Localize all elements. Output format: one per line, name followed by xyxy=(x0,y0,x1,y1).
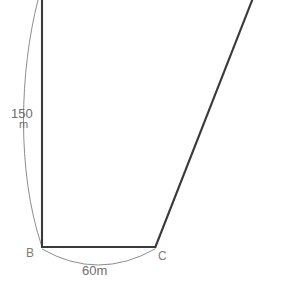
vertex-label-c: C xyxy=(158,249,167,263)
geometry-diagram: B C 150 m 60m xyxy=(0,0,291,296)
geometry-figure-canvas: B C 150 m 60m xyxy=(0,0,291,296)
left-dimension-unit: m xyxy=(19,118,28,130)
base-dimension-value: 60m xyxy=(82,263,107,278)
edge-right-side xyxy=(155,0,253,248)
vertex-label-b: B xyxy=(26,246,34,260)
